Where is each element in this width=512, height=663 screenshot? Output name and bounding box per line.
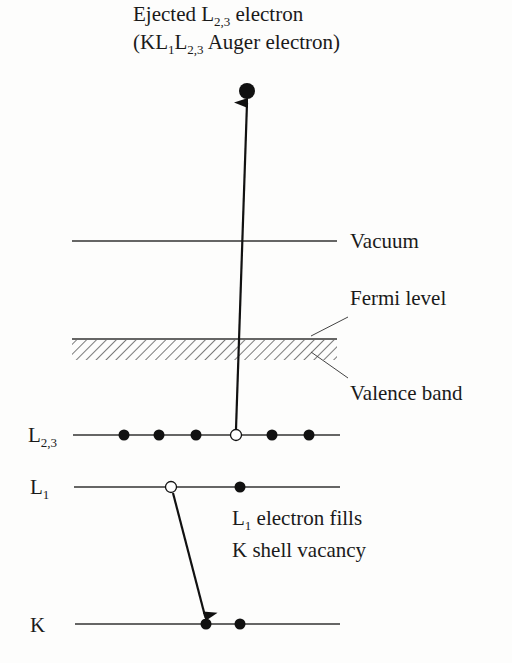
l23-electron <box>191 430 202 441</box>
title-line-1: Ejected L2,3 electron <box>133 2 303 26</box>
l23-vacancy <box>231 430 242 441</box>
vacuum-label: Vacuum <box>350 229 419 253</box>
l23-electron <box>267 430 278 441</box>
title-text: electron <box>230 2 303 26</box>
k-electron <box>201 619 212 630</box>
title-text: L <box>175 30 188 54</box>
level-label-main: L <box>30 475 43 499</box>
title-subscript: 2,3 <box>214 14 230 29</box>
l1-vacancy <box>166 482 177 493</box>
valence-band-hatch <box>72 340 337 360</box>
title-line-2: (KL1L2,3 Auger electron) <box>133 30 340 54</box>
l23-level-label: L2,3 <box>28 423 57 447</box>
l1-level-label: L1 <box>30 475 49 499</box>
level-label-subscript: 1 <box>43 487 50 502</box>
level-label-main: L <box>28 423 41 447</box>
k-level-label: K <box>30 613 45 637</box>
l23-electron <box>304 430 315 441</box>
fermi-level-label: Fermi level <box>350 286 446 310</box>
title-subscript: 2,3 <box>187 42 203 57</box>
l23-electron <box>119 430 130 441</box>
ejection-arrow <box>236 103 247 429</box>
valence-band-label: Valence band <box>350 381 463 405</box>
l1-electron <box>235 482 246 493</box>
level-label-subscript: 2,3 <box>41 435 57 450</box>
auger-diagram <box>0 0 512 663</box>
fermi-leader-line <box>311 317 348 336</box>
annotation-line-1: L1 electron fills <box>232 506 362 530</box>
title-text: Auger electron) <box>204 30 340 54</box>
annotation-line-2: K shell vacancy <box>232 538 366 562</box>
transition-arrow <box>173 493 205 616</box>
ejected-electron <box>239 83 255 99</box>
k-electron <box>235 619 246 630</box>
title-text: (KL <box>133 30 168 54</box>
title-text: Ejected L <box>133 2 214 26</box>
annotation-text: electron fills <box>251 506 362 530</box>
annotation-text: L <box>232 506 245 530</box>
l23-electron <box>154 430 165 441</box>
